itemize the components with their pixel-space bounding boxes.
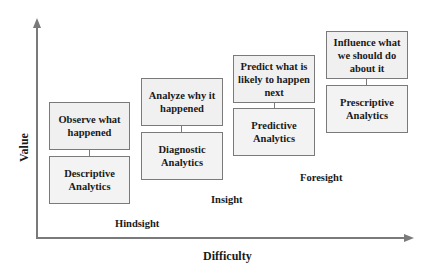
predictive-analytics-box: Predictive Analytics	[233, 108, 315, 156]
y-axis-title: Value	[17, 128, 32, 168]
analytics-text: Descriptive Analytics	[54, 167, 125, 193]
goal-text: Observe what happened	[54, 113, 125, 139]
goal-box-analyze: Analyze why it happened	[141, 78, 223, 126]
x-axis-arrow-icon	[404, 234, 414, 242]
y-axis-arrow-icon	[33, 18, 41, 28]
analytics-text: Predictive Analytics	[238, 119, 310, 145]
goal-box-observe: Observe what happened	[49, 102, 130, 150]
diagnostic-analytics-box: Diagnostic Analytics	[141, 132, 223, 180]
zone-label-insight: Insight	[211, 194, 243, 205]
prescriptive-analytics-box: Prescriptive Analytics	[326, 85, 408, 133]
analytics-text: Diagnostic Analytics	[146, 143, 218, 169]
goal-box-influence: Influence what we should do about it	[326, 31, 408, 79]
zone-label-foresight: Foresight	[300, 172, 342, 183]
goal-text: Analyze why it happened	[146, 89, 218, 115]
analytics-maturity-diagram: Value Difficulty Observe what happened D…	[0, 0, 430, 279]
descriptive-analytics-box: Descriptive Analytics	[49, 156, 130, 204]
x-axis-title: Difficulty	[203, 249, 252, 264]
analytics-text: Prescriptive Analytics	[331, 96, 403, 122]
goal-text: Predict what is likely to happen next	[238, 60, 310, 99]
goal-text: Influence what we should do about it	[331, 36, 403, 75]
zone-label-hindsight: Hindsight	[115, 218, 159, 229]
goal-box-predict: Predict what is likely to happen next	[233, 55, 315, 103]
